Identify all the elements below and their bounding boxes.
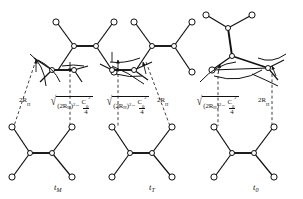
distance-formula-panel1: √ (2RH)2 − C02 4 [49,91,93,116]
distance-formula-panel2: √ (2RH)2 − C02 4 [105,91,149,116]
panel-label-tt: tT [149,182,155,193]
radical-sign-icon: √ [107,96,112,116]
panel-t0-top-molecule [203,12,255,56]
panel-label-t0: t0 [253,182,258,193]
panel-label-tm: tM [54,182,62,193]
panel-tm-mid-molecule [30,54,88,86]
panel-tt-bottom-molecule [109,124,175,180]
conformation-diagram: tM [0,0,303,199]
radical-sign-icon: √ [51,96,56,116]
panel-tm-bottom-molecule [9,124,75,180]
radical-sign-icon: √ [197,96,202,116]
distance-label-2rh-panel2: 2RH [157,96,168,105]
distance-label-2rh-panel1: 2RH [19,96,30,105]
panel-t0-bottom-molecule [211,124,277,180]
distance-formula-panel3: √ (2RH)2 − C02 4 [195,91,239,116]
distance-label-2rh-panel3: 2RH [258,96,269,105]
